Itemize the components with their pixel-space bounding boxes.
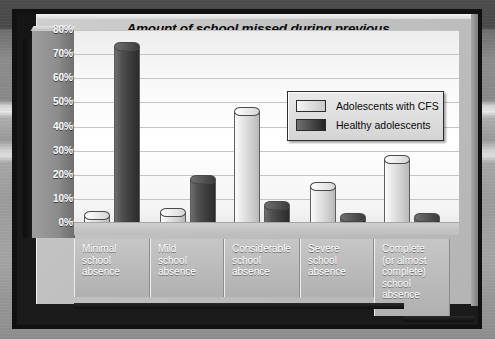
category-label-line: Complete: [382, 243, 449, 255]
category-last-base-bevel: [404, 316, 474, 322]
bar-cfs-4: [384, 160, 410, 223]
bar-top-face: [160, 208, 186, 217]
x-axis-category-labels: MinimalschoolabsenceMildschoolabsenceCon…: [74, 239, 478, 304]
gridline: [74, 30, 459, 31]
bar-top-face: [414, 213, 440, 222]
category-label-line: Minimal: [82, 243, 149, 255]
y-axis-label-50pct: 50%: [33, 96, 73, 107]
category-label-line: absence: [158, 266, 223, 278]
y-axis-label-60pct: 60%: [33, 72, 73, 83]
y-axis-label-30pct: 30%: [33, 145, 73, 156]
category-label-line: Considerable: [232, 243, 299, 255]
category-label-3: Severeschoolabsence: [300, 239, 374, 297]
bar-face: [190, 180, 216, 223]
legend-swatch-healthy-icon: [296, 119, 326, 131]
bar-top-face: [114, 42, 140, 51]
legend-swatch-cfs-icon: [296, 100, 326, 112]
bar-cfs-2: [234, 112, 260, 223]
category-label-line: school: [382, 278, 449, 290]
bar-top-face: [84, 211, 110, 220]
legend-label-healthy: Healthy adolescents: [336, 118, 431, 132]
bar-healthy-0: [114, 47, 140, 223]
bar-cfs-3: [310, 187, 336, 223]
category-label-line: school: [158, 255, 223, 267]
category-label-line: school: [82, 255, 149, 267]
category-label-1: Mildschoolabsence: [150, 239, 224, 297]
y-axis-tick-hatch: [61, 30, 75, 238]
category-label-line: absence: [232, 266, 299, 278]
chart-legend: Adolescents with CFS Healthy adolescents: [287, 91, 444, 141]
bar-top-face: [384, 155, 410, 164]
bar-top-face: [340, 213, 366, 222]
category-label-line: Mild: [158, 243, 223, 255]
category-label-line: Severe: [308, 243, 373, 255]
bar-face: [114, 47, 140, 223]
bar-top-face: [190, 175, 216, 184]
category-label-0: Minimalschoolabsence: [74, 239, 150, 297]
category-label-line: absence: [382, 289, 449, 301]
panel-top-bevel: [36, 14, 478, 19]
category-label-line: (or almost: [382, 255, 449, 267]
y-axis-label-80pct: 80%: [33, 24, 73, 35]
bar-healthy-2: [264, 206, 290, 223]
bar-top-face: [264, 201, 290, 210]
plot-floor: [74, 222, 459, 235]
category-label-line: absence: [82, 266, 149, 278]
bar-top-face: [310, 182, 336, 191]
category-label-line: absence: [308, 266, 373, 278]
y-axis-label-70pct: 70%: [33, 48, 73, 59]
category-label-line: school: [308, 255, 373, 267]
category-base-bevel: [74, 303, 404, 309]
bar-face: [384, 160, 410, 223]
y-axis-label-40pct: 40%: [33, 121, 73, 132]
bar-top-face: [234, 107, 260, 116]
category-label-line: school: [232, 255, 299, 267]
category-label-2: Considerableschoolabsence: [224, 239, 300, 297]
category-label-line: complete): [382, 266, 449, 278]
legend-label-cfs: Adolescents with CFS: [336, 99, 439, 113]
bar-healthy-1: [190, 180, 216, 223]
y-axis-label-10pct: 10%: [33, 193, 73, 204]
bar-face: [234, 112, 260, 223]
y-axis-label-20pct: 20%: [33, 169, 73, 180]
bar-face: [310, 187, 336, 223]
y-axis-label-0pct: 0%: [33, 217, 73, 228]
chart-screenshot: Amount of school missed during previous …: [0, 0, 495, 339]
